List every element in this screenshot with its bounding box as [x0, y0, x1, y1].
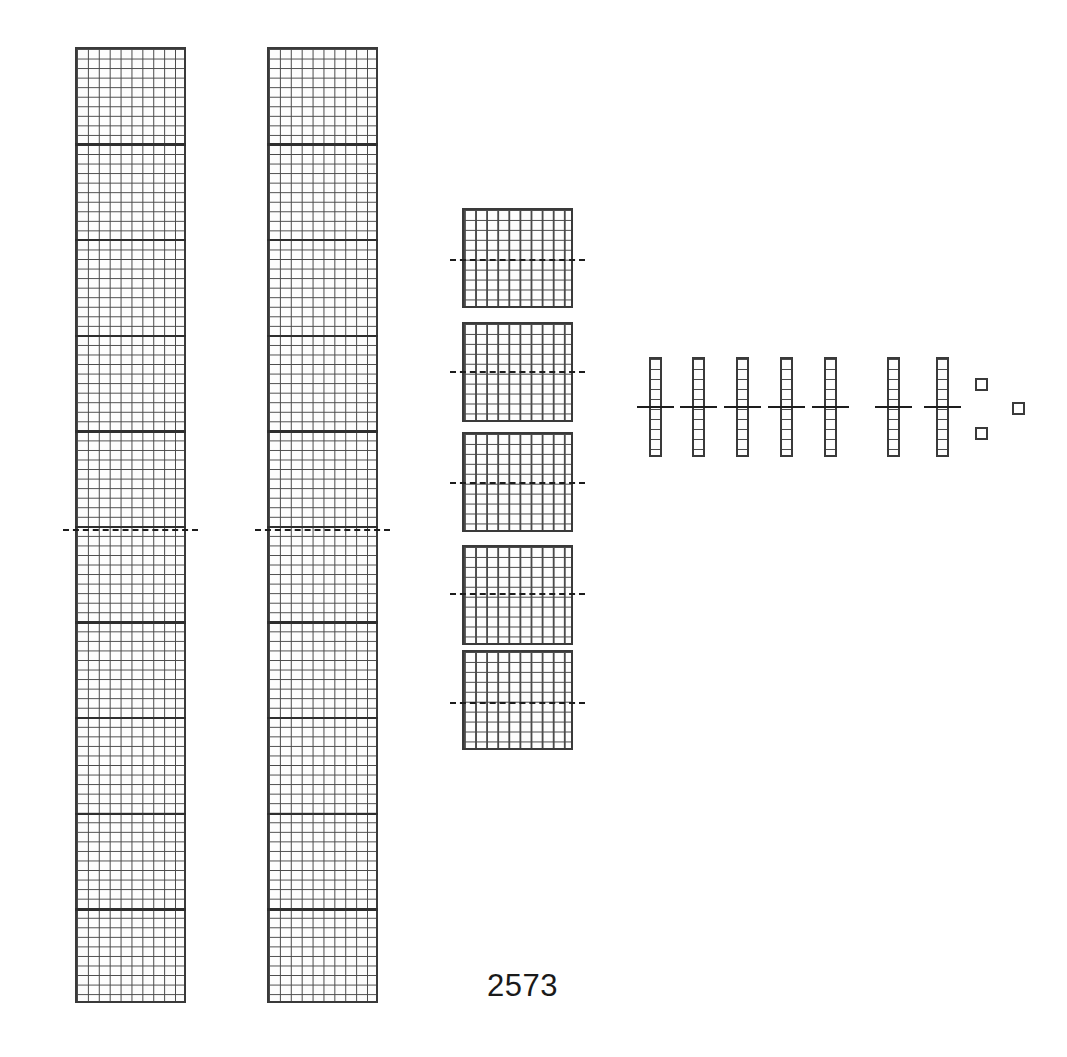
- ten-rod: [649, 357, 662, 457]
- diagram-canvas: 2573: [0, 0, 1067, 1057]
- ten-rod: [736, 357, 749, 457]
- ten-rod: [887, 357, 900, 457]
- decade-separator: [75, 335, 186, 338]
- total-value-label: 2573: [487, 968, 558, 1004]
- ten-rod: [824, 357, 837, 457]
- decade-separator: [267, 239, 378, 242]
- hundred-block: [462, 432, 573, 532]
- decade-separator: [75, 526, 186, 529]
- hundred-block: [462, 208, 573, 308]
- ten-rod: [936, 357, 949, 457]
- decade-separator: [75, 908, 186, 911]
- hundred-block: [462, 322, 573, 422]
- decade-separator: [267, 143, 378, 146]
- ten-rod: [780, 357, 793, 457]
- decade-separator: [75, 239, 186, 242]
- unit-cube: [1012, 402, 1025, 415]
- decade-separator: [267, 813, 378, 816]
- ten-rod: [692, 357, 705, 457]
- decade-separator: [267, 526, 378, 529]
- unit-cube: [975, 427, 988, 440]
- decade-separator: [75, 717, 186, 720]
- decade-separator: [267, 717, 378, 720]
- decade-separator: [267, 430, 378, 433]
- decade-separator: [267, 335, 378, 338]
- thousand-block: [75, 47, 186, 1003]
- thousand-block: [267, 47, 378, 1003]
- decade-separator: [75, 143, 186, 146]
- hundred-block: [462, 545, 573, 645]
- decade-separator: [75, 621, 186, 624]
- hundred-block: [462, 650, 573, 750]
- decade-separator: [267, 908, 378, 911]
- decade-separator: [267, 621, 378, 624]
- decade-separator: [75, 813, 186, 816]
- unit-cube: [975, 378, 988, 391]
- decade-separator: [75, 430, 186, 433]
